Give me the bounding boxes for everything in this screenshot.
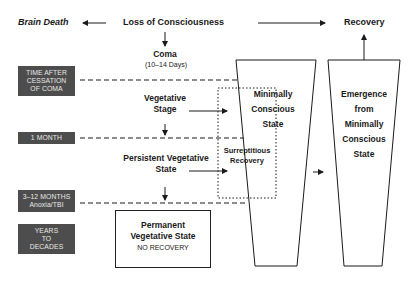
emcs-line3: Minimally	[336, 117, 392, 132]
permanent-vs-box: Permanent Vegetative State NO RECOVERY	[115, 210, 211, 268]
emcs-line1: Emergence	[336, 87, 392, 102]
emcs-label: Emergence from Minimally Conscious State	[336, 87, 392, 162]
timeline-1-month: 1 MONTH	[18, 132, 75, 144]
timeline-years-to-decades: YEARS TO DECADES	[18, 224, 75, 254]
timeline-0-line0: TIME AFTER	[26, 69, 67, 77]
emcs-line4: Conscious	[336, 132, 392, 147]
coma-duration: (10–14 Days)	[145, 60, 185, 69]
timeline-2-line0: 3–12 MONTHS	[23, 193, 71, 201]
timeline-0-line1: CESSATION	[27, 77, 67, 85]
timeline-3-line2: DECADES	[30, 243, 64, 251]
coma-title: Coma	[145, 49, 185, 60]
recovery-label: Recovery	[344, 17, 385, 28]
timeline-0-line2: OF COMA	[30, 85, 62, 93]
surreptitious-recovery-label: Surreptitious Recovery	[218, 146, 276, 166]
vegetative-stage-label: Vegetative Stage	[140, 93, 190, 115]
mcs-line2: Conscious	[245, 102, 301, 117]
vegetative-stage-line1: Vegetative	[140, 93, 190, 104]
timeline-1-line0: 1 MONTH	[31, 134, 62, 142]
timeline-time-after-cessation: TIME AFTER CESSATION OF COMA	[18, 66, 75, 96]
mcs-line3: State	[245, 117, 301, 132]
surreptitious-line1: Surreptitious	[218, 146, 276, 156]
persistent-vs-line1: Persistent Vegetative	[117, 153, 215, 164]
mcs-line1: Minimally	[245, 87, 301, 102]
timeline-2-line1: Anoxia/TBI	[29, 201, 63, 209]
emcs-line5: State	[336, 147, 392, 162]
permanent-vs-line2: Vegetative State	[116, 231, 210, 242]
persistent-vs-label: Persistent Vegetative State	[117, 153, 215, 175]
timeline-3-line0: YEARS	[35, 227, 59, 235]
timeline-3-line1: TO	[42, 235, 52, 243]
permanent-vs-line1: Permanent	[116, 220, 210, 231]
brain-death-label: Brain Death	[18, 17, 69, 28]
vegetative-stage-line2: Stage	[140, 104, 190, 115]
surreptitious-line2: Recovery	[218, 156, 276, 166]
emcs-line2: from	[336, 102, 392, 117]
permanent-vs-note: NO RECOVERY	[116, 243, 210, 252]
persistent-vs-line2: State	[117, 164, 215, 175]
mcs-label: Minimally Conscious State	[245, 87, 301, 132]
loss-of-consciousness-label: Loss of Consciousness	[123, 17, 224, 28]
timeline-3-12-months: 3–12 MONTHS Anoxia/TBI	[18, 190, 75, 212]
coma-label: Coma (10–14 Days)	[145, 49, 185, 69]
